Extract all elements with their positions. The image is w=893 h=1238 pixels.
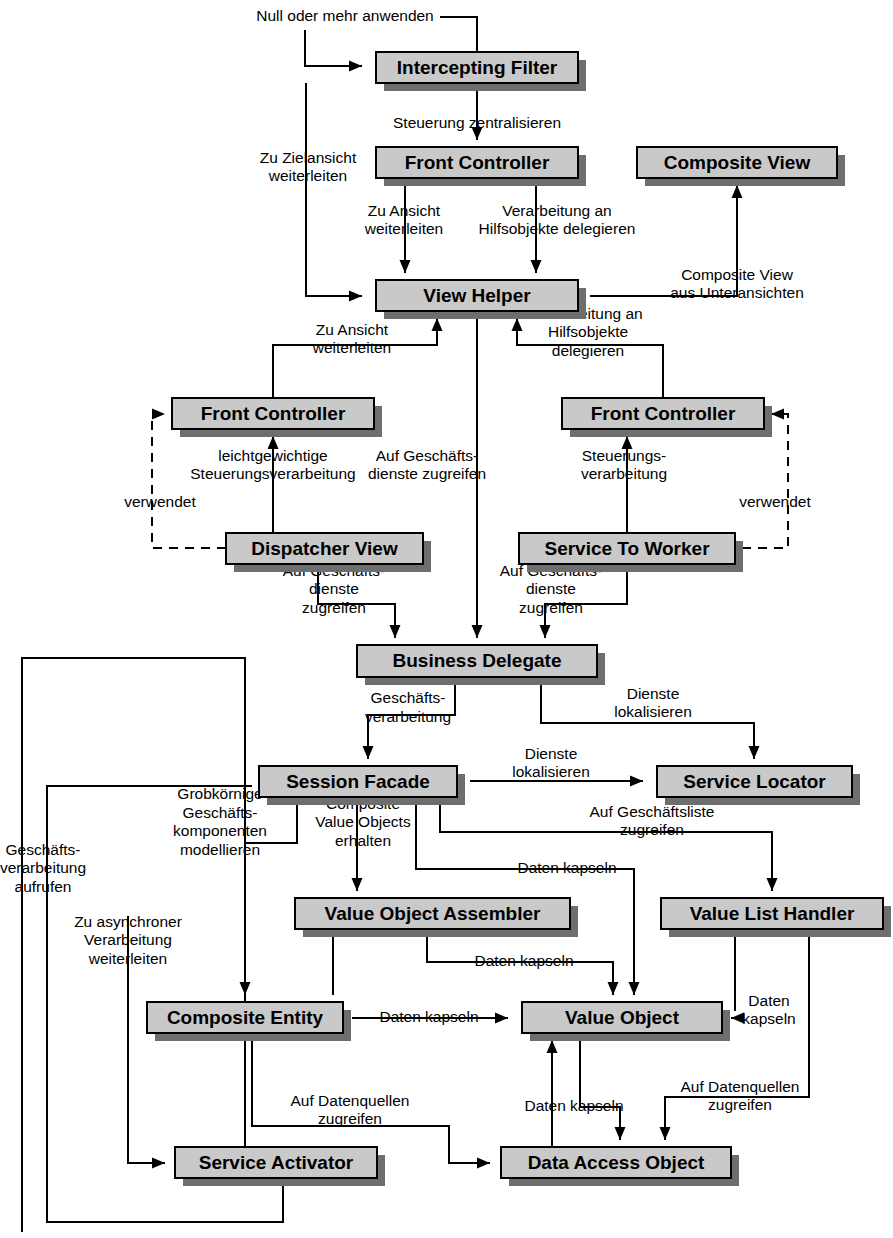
edge-label-line: Null oder mehr anwenden [256,7,434,24]
edge-layer [22,17,809,1232]
edge-label-line: Auf Geschäfts- [376,447,479,464]
node-intercepting-filter[interactable]: Intercepting Filter [376,52,586,91]
edge-vo-to-dao [580,1033,620,1140]
arrowhead-sf-to-value-object [629,982,640,995]
edge-label-line: Value Objects [315,813,411,830]
edge-label-geschaeftsverarbeitung-aufrufen: Geschäfts-verarbeitungaufrufen [0,841,86,895]
edge-label-line: zugreifen [708,1096,772,1113]
edge-label-line: zugreifen [302,599,366,616]
edge-label-line: modellieren [180,841,260,858]
arrowhead-null-anwenden-to-if [349,61,362,72]
node-data-access-object[interactable]: Data Access Object [501,1147,739,1186]
edge-label-daten-kapseln-voa-vo: Daten kapseln [474,952,573,969]
node-label: Value Object Assembler [325,903,541,924]
edge-label-line: dienste zugreifen [368,465,486,482]
arrowhead-sf-to-vlh [767,878,778,891]
edge-label-daten-kapseln-vlh-vo: Datenkapseln [742,992,795,1028]
node-service-locator[interactable]: Service Locator [657,766,860,805]
edge-label-line: weiterleiten [268,167,347,184]
edge-label-line: Hilfsobjekte delegieren [479,220,636,237]
arrowhead-voa-to-value-object [608,982,619,995]
edge-label-line: leichtgewichtige [218,447,327,464]
node-view-helper[interactable]: View Helper [376,280,586,319]
edge-label-line: Daten [748,992,789,1009]
node-value-object-assembler[interactable]: Value Object Assembler [295,898,578,937]
arrowhead-fc-left-to-vh [432,318,443,331]
node-session-facade[interactable]: Session Facade [259,766,465,805]
edge-label-line: weiterleiten [312,339,391,356]
node-label: View Helper [423,285,531,306]
edge-label-verwendet-right: verwendet [739,493,811,510]
node-label: Session Facade [286,771,430,792]
node-front-controller-right[interactable]: Front Controller [562,398,772,437]
edge-label-line: verarbeitung [581,465,667,482]
edge-label-auf-geschaeftsdienste-zugreifen-center: Auf Geschäfts-dienste zugreifen [368,447,486,483]
edge-label-dienste-lokalisieren-upper: Dienstelokalisieren [614,685,692,721]
arrowhead-fc-to-vh-right [531,260,542,273]
edge-label-verwendet-left: verwendet [124,493,196,510]
edge-label-line: Zu Ansicht [316,321,389,338]
edge-label-line: Steuerungs- [582,447,666,464]
edge-label-grobkoernige-geschaeftskomponenten-modellieren: GrobkörnigeGeschäfts-komponentenmodellie… [173,785,267,858]
edge-label-line: zugreifen [318,1110,382,1127]
edge-label-daten-kapseln-dao-vo: Daten kapseln [524,1097,623,1114]
node-label: Front Controller [591,403,736,424]
edge-null-anwenden-to-if [305,30,362,66]
node-composite-view[interactable]: Composite View [637,147,845,186]
edge-label-zu-ansicht-weiterleiten-top: Zu Ansichtweiterleiten [364,202,443,238]
edge-label-line: Zu asynchroner [74,913,182,930]
arrowhead-dispatcher-to-bd [390,625,401,638]
edge-label-daten-kapseln-sf-vo: Daten kapseln [517,859,616,876]
node-label: Composite Entity [167,1007,324,1028]
edge-label-line: Daten kapseln [524,1097,623,1114]
node-label: Business Delegate [393,650,562,671]
node-composite-entity[interactable]: Composite Entity [147,1002,351,1041]
edge-label-steuerung-zentralisieren: Steuerung zentralisieren [393,114,561,131]
node-label: Front Controller [201,403,346,424]
node-business-delegate[interactable]: Business Delegate [357,645,605,685]
edge-label-line: Steuerung zentralisieren [393,114,561,131]
node-value-object[interactable]: Value Object [522,1002,730,1041]
edge-label-line: dienste [526,580,576,597]
node-label: Dispatcher View [251,538,398,559]
arrowhead-vh-to-composite-view [732,185,743,198]
arrowhead-bd-to-service-locator [749,746,760,759]
edge-label-line: verwendet [739,493,811,510]
edge-label-line: Steuerungsverarbeitung [190,465,355,482]
edge-label-auf-datenquellen-zugreifen-right: Auf Datenquellenzugreifen [681,1078,800,1114]
edge-label-line: Auf Geschäftsliste [590,803,715,820]
node-service-activator[interactable]: Service Activator [175,1147,385,1186]
edge-label-leichtgewichtige-steuerungsverarbeitung: leichtgewichtigeSteuerungsverarbeitung [190,447,355,483]
edge-label-verarbeitung-hilfsobjekte-delegieren-top: Verarbeitung anHilfsobjekte delegieren [479,202,636,238]
edge-label-line: delegieren [552,342,624,359]
arrowhead-zu-asynchroner-to-sa [152,1158,165,1169]
node-service-to-worker[interactable]: Service To Worker [519,533,743,572]
node-value-list-handler[interactable]: Value List Handler [661,898,891,937]
edge-label-line: Hilfsobjekte [548,323,628,340]
edge-label-zu-ansicht-weiterleiten-mid: Zu Ansichtweiterleiten [312,321,391,357]
edge-if-self-loop-top [440,17,477,52]
edge-label-line: Dienste [525,745,578,762]
arrowhead-if-to-view-helper [349,291,362,302]
node-dispatcher-view[interactable]: Dispatcher View [226,533,431,572]
edge-label-line: Geschäfts- [371,689,446,706]
edge-label-line: Verarbeitung [84,931,172,948]
edge-label-line: aufrufen [15,878,72,895]
edge-label-line: Zu Ansicht [368,202,441,219]
edge-label-line: Zu Zielansicht [260,149,357,166]
node-label: Service Activator [199,1152,354,1173]
edge-label-line: kapseln [742,1010,795,1027]
node-front-controller-top[interactable]: Front Controller [376,147,586,186]
edge-label-line: Geschäfts- [183,804,258,821]
arrowhead-sf-to-service-locator [630,776,643,787]
node-label: Service Locator [683,771,826,792]
edge-label-line: lokalisieren [614,703,692,720]
node-label: Data Access Object [528,1152,705,1173]
edge-label-line: Grobkörnige [177,785,262,802]
edge-label-auf-geschaeftsliste-zugreifen: Auf Geschäftslistezugreifen [590,803,715,839]
node-front-controller-left[interactable]: Front Controller [172,398,382,437]
edge-label-line: Dienste [627,685,680,702]
node-label: Composite View [664,152,811,173]
edge-label-auf-datenquellen-zugreifen-left: Auf Datenquellenzugreifen [291,1092,410,1128]
edge-label-line: Geschäfts- [6,841,81,858]
